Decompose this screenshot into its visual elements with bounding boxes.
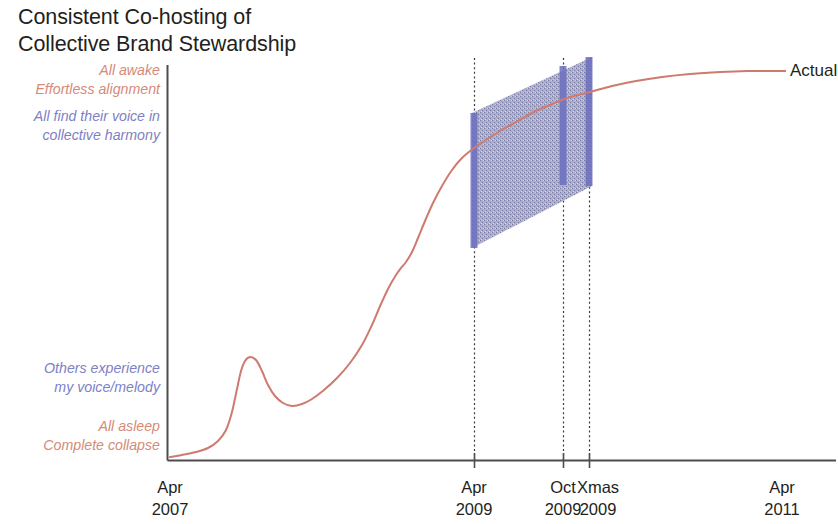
chart-canvas: Consistent Co-hosting of Collective Bran… — [0, 0, 838, 524]
xtick-label-apr-2007: Apr 2007 — [128, 476, 212, 520]
forecast-uncertainty-band — [472, 57, 592, 248]
oct-2009-marker — [560, 66, 567, 185]
xtick-label-xmas-2009: Xmas 2009 — [556, 476, 640, 520]
plot-area — [0, 0, 838, 524]
xtick-label-apr-2011: Apr 2011 — [740, 476, 824, 520]
apr-2009-marker — [471, 113, 478, 248]
series-label-actual: Actual — [790, 61, 837, 81]
xtick-label-apr-2009: Apr 2009 — [432, 476, 516, 520]
xmas-2009-marker — [586, 57, 593, 186]
